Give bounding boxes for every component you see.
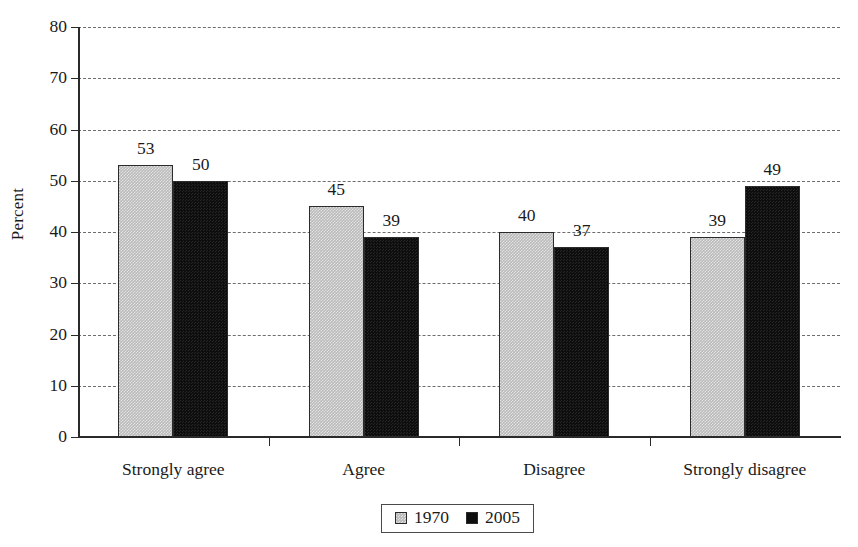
- x-axis-category-labels: Strongly agreeAgreeDisagreeStrongly disa…: [78, 437, 840, 477]
- y-tick-label-70: 70: [50, 67, 68, 88]
- y-tick-label-60: 60: [50, 119, 68, 140]
- y-tick-label-80: 80: [50, 16, 68, 37]
- chart-legend: 19702005: [381, 504, 534, 533]
- bar-pair: 3949: [650, 27, 841, 437]
- bars-layer: 5350453940373949: [78, 27, 840, 437]
- bar-value-label: 45: [328, 181, 346, 199]
- bar-value-label: 50: [192, 156, 210, 174]
- bar[interactable]: 53: [118, 165, 173, 437]
- bar[interactable]: 39: [690, 237, 745, 437]
- bar-group: 4037: [459, 27, 650, 437]
- bar[interactable]: 50: [173, 181, 228, 437]
- y-tick-label-30: 30: [50, 272, 68, 293]
- bar-value-label: 49: [764, 161, 782, 179]
- legend-label: 1970: [414, 509, 449, 527]
- bar-pair: 5350: [78, 27, 269, 437]
- bar[interactable]: 37: [554, 247, 609, 437]
- legend-swatch-gray: [395, 512, 407, 524]
- bar-value-label: 53: [137, 140, 155, 158]
- y-tick-label-20: 20: [50, 324, 68, 345]
- bar-value-label: 40: [518, 207, 536, 225]
- x-axis-label: Strongly agree: [122, 459, 225, 480]
- bar[interactable]: 45: [309, 206, 364, 437]
- plot-area: 01020304050607080 5350453940373949: [78, 27, 840, 437]
- x-axis-label: Disagree: [523, 459, 585, 480]
- bar-chart: Percent 01020304050607080 53504539403739…: [0, 0, 858, 547]
- bar-group: 3949: [650, 27, 841, 437]
- y-tick-label-40: 40: [50, 221, 68, 242]
- legend-swatch-black: [466, 512, 478, 524]
- y-tick-label-0: 0: [58, 426, 67, 447]
- bar-pair: 4037: [459, 27, 650, 437]
- bar-group: 4539: [269, 27, 460, 437]
- x-axis-label: Agree: [342, 459, 385, 480]
- bar-value-label: 39: [709, 212, 727, 230]
- y-tick-label-50: 50: [50, 170, 68, 191]
- bar[interactable]: 49: [745, 186, 800, 437]
- y-tick-label-10: 10: [50, 375, 68, 396]
- legend-item[interactable]: 1970: [395, 509, 449, 527]
- bar-value-label: 37: [573, 222, 591, 240]
- legend-item[interactable]: 2005: [466, 509, 520, 527]
- bar-group: 5350: [78, 27, 269, 437]
- bar-pair: 4539: [269, 27, 460, 437]
- y-axis-title: Percent: [8, 174, 28, 254]
- bar[interactable]: 39: [364, 237, 419, 437]
- legend-label: 2005: [485, 509, 520, 527]
- bar[interactable]: 40: [499, 232, 554, 437]
- x-axis-label: Strongly disagree: [683, 459, 806, 480]
- bar-value-label: 39: [383, 212, 401, 230]
